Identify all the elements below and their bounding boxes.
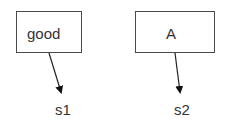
label-s1: s1 [55, 101, 71, 118]
arrow-box2-to-s2 [175, 53, 180, 92]
label-s2: s2 [174, 101, 190, 118]
node-a-label: A [166, 25, 176, 42]
arrow-box1-to-s1 [49, 53, 61, 92]
node-good-label: good [27, 25, 60, 42]
node-good: good [16, 11, 82, 53]
node-a: A [135, 11, 215, 53]
